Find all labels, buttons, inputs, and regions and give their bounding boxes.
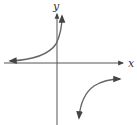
upper-left-branch (10, 16, 62, 61)
x-axis-label: x (128, 57, 135, 70)
y-axis-label: y (52, 0, 60, 13)
lower-right-branch (79, 79, 120, 118)
function-graph: y x (0, 0, 137, 125)
